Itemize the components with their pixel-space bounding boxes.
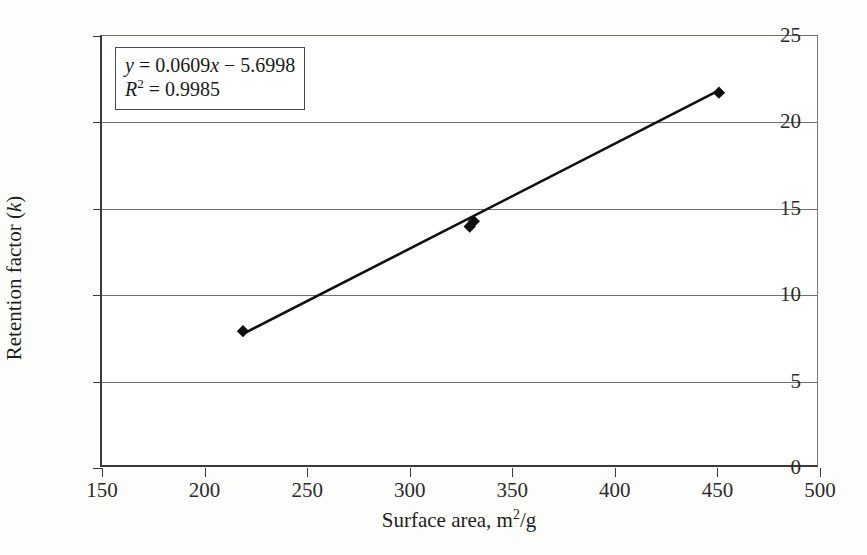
x-axis-tick <box>102 468 103 477</box>
y-axis-tick <box>93 122 102 123</box>
y-axis-tick <box>93 36 102 37</box>
y-axis-title-close: ) <box>2 195 26 202</box>
equation-x-symbol: x <box>210 54 219 76</box>
x-axis-title: Surface area, m2/g <box>100 508 818 533</box>
r-symbol: R <box>125 78 137 100</box>
y-axis-title-symbol: k <box>2 202 26 211</box>
y-axis-tick <box>93 209 102 210</box>
trendline <box>243 90 719 333</box>
x-axis-tick <box>307 468 308 477</box>
x-axis-tick-label: 150 <box>86 480 118 501</box>
trendline-path <box>243 90 719 333</box>
y-axis-tick <box>93 295 102 296</box>
r-exponent: 2 <box>137 77 144 92</box>
data-point-marker <box>713 86 725 98</box>
x-axis-title-tail: /g <box>520 508 536 532</box>
x-axis-tick <box>410 468 411 477</box>
x-axis-tick <box>615 468 616 477</box>
y-axis-tick <box>93 382 102 383</box>
x-axis-tick <box>717 468 718 477</box>
x-axis-tick <box>820 468 821 477</box>
y-axis-tick <box>93 468 102 469</box>
r-squared-line: R2 = 0.9985 <box>125 77 295 101</box>
x-axis-tick-label: 200 <box>189 480 221 501</box>
x-axis-title-main: Surface area, m <box>382 508 513 532</box>
y-axis-title-main: Retention factor ( <box>2 212 26 360</box>
x-axis-tick-label: 450 <box>702 480 734 501</box>
y-axis-title: Retention factor (k) <box>2 195 27 359</box>
x-axis-tick-label: 350 <box>497 480 529 501</box>
x-axis-tick-label: 250 <box>291 480 323 501</box>
x-axis-tick-label: 500 <box>804 480 836 501</box>
x-axis-tick <box>512 468 513 477</box>
plot-area: 0510152025 150200250300350400450500 y = … <box>100 35 818 467</box>
regression-equation-box: y = 0.0609x − 5.6998 R2 = 0.9985 <box>115 47 305 110</box>
equation-y-symbol: y <box>125 54 134 76</box>
data-point-marker <box>237 325 249 337</box>
equation-slope: = 0.0609 <box>134 54 210 76</box>
x-axis-title-exponent: 2 <box>513 507 520 522</box>
equation-line: y = 0.0609x − 5.6998 <box>125 53 295 77</box>
r-squared-value: = 0.9985 <box>144 78 220 100</box>
x-axis-tick-label: 300 <box>394 480 426 501</box>
equation-intercept: − 5.6998 <box>219 54 295 76</box>
x-axis-tick-label: 400 <box>599 480 631 501</box>
x-axis-tick <box>205 468 206 477</box>
chart-figure: Retention factor (k) Surface area, m2/g … <box>0 0 867 555</box>
